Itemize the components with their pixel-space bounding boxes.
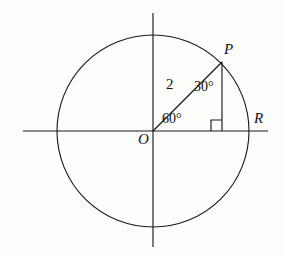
point-label-r: R — [254, 111, 263, 126]
radius-length-label: 2 — [166, 77, 174, 92]
geometry-figure: P R O 30° 60° 2 — [0, 0, 285, 256]
point-label-p: P — [224, 42, 233, 57]
right-angle-marker-icon — [211, 120, 222, 131]
geometry-canvas — [0, 0, 285, 256]
angle-label-30-degrees: 30° — [194, 80, 214, 94]
angle-label-60-degrees: 60° — [162, 112, 182, 126]
point-label-origin: O — [138, 132, 149, 147]
